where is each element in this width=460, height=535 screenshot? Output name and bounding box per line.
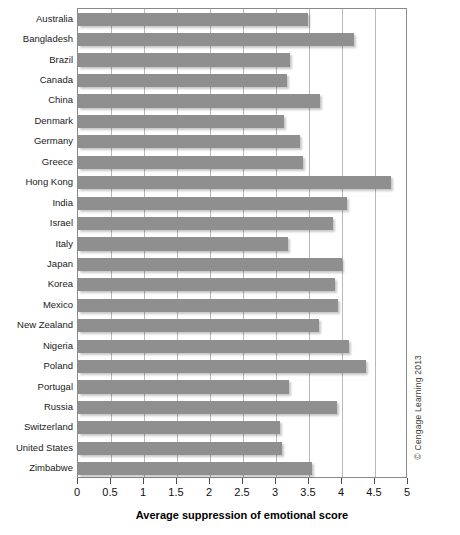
bar-row [78,377,406,397]
bar-row [78,50,406,70]
x-tick-label: 4.5 [366,486,381,498]
bar-row [78,213,406,233]
bar [78,278,335,291]
y-axis-label-mexico: Mexico [0,299,73,310]
x-tick-label: 4 [338,486,344,498]
x-axis-tick-marks [77,478,407,484]
y-axis-label-switzerland: Switzerland [0,421,73,432]
y-axis-category-labels: AustraliaBangladeshBrazilCanadaChinaDenm… [0,8,73,478]
bar [78,115,284,128]
bar-chart-figure: AustraliaBangladeshBrazilCanadaChinaDenm… [0,0,460,535]
y-axis-label-nigeria: Nigeria [0,340,73,351]
y-axis-label-new-zealand: New Zealand [0,319,73,330]
bar-row [78,9,406,29]
y-axis-label-bangladesh: Bangladesh [0,33,73,44]
x-tick [407,478,408,484]
bar [78,176,391,189]
bar [78,442,282,455]
bar-row [78,132,406,152]
y-axis-label-russia: Russia [0,401,73,412]
x-tick [143,478,144,484]
bar-row [78,438,406,458]
x-tick-label: 0.5 [102,486,117,498]
y-axis-label-poland: Poland [0,360,73,371]
bar [78,135,300,148]
x-axis-tick-labels: 00.511.522.533.544.55 [77,486,407,502]
bar-row [78,275,406,295]
bar [78,156,303,169]
bar [78,33,354,46]
x-tick-label: 1.5 [168,486,183,498]
bar-row [78,418,406,438]
bar-row [78,254,406,274]
x-tick [341,478,342,484]
y-axis-label-india: India [0,197,73,208]
bar-series [78,9,406,477]
x-tick [308,478,309,484]
bar [78,237,288,250]
bar [78,462,312,475]
bar-row [78,336,406,356]
x-tick-label: 2.5 [234,486,249,498]
x-tick [77,478,78,484]
bar-row [78,152,406,172]
bar-row [78,193,406,213]
y-axis-label-zimbabwe: Zimbabwe [0,462,73,473]
x-tick-label: 5 [404,486,410,498]
bar [78,319,319,332]
bar-row [78,111,406,131]
bar [78,74,287,87]
x-tick-label: 0 [74,486,80,498]
bar-row [78,459,406,479]
x-tick-label: 3.5 [300,486,315,498]
bar [78,94,320,107]
bar [78,217,333,230]
bar [78,421,280,434]
bar-row [78,316,406,336]
bar-row [78,172,406,192]
y-axis-label-brazil: Brazil [0,54,73,65]
bar [78,401,337,414]
y-axis-label-china: China [0,94,73,105]
bar [78,258,342,271]
y-axis-label-greece: Greece [0,156,73,167]
bar [78,53,290,66]
bar [78,360,366,373]
x-tick [209,478,210,484]
x-axis-title: Average suppression of emotional score [77,509,407,521]
x-tick-label: 1 [140,486,146,498]
bar [78,340,349,353]
bar-row [78,70,406,90]
y-axis-label-canada: Canada [0,74,73,85]
y-axis-label-denmark: Denmark [0,115,73,126]
x-tick [110,478,111,484]
x-tick [242,478,243,484]
bar [78,380,289,393]
copyright-credit: © Cengage Learning 2013 [413,355,423,459]
y-axis-label-israel: Israel [0,217,73,228]
bar-row [78,91,406,111]
bar [78,13,308,26]
x-tick [374,478,375,484]
bar-row [78,356,406,376]
y-axis-label-portugal: Portugal [0,381,73,392]
x-tick [176,478,177,484]
bar-row [78,397,406,417]
x-tick-label: 2 [206,486,212,498]
bar-row [78,295,406,315]
x-tick [275,478,276,484]
y-axis-label-italy: Italy [0,238,73,249]
bar [78,299,338,312]
y-axis-label-japan: Japan [0,258,73,269]
y-axis-label-germany: Germany [0,135,73,146]
plot-area [77,8,407,478]
bar-row [78,234,406,254]
y-axis-label-korea: Korea [0,278,73,289]
bar-row [78,29,406,49]
x-tick-label: 3 [272,486,278,498]
y-axis-label-hong-kong: Hong Kong [0,176,73,187]
bar [78,197,347,210]
y-axis-label-united-states: United States [0,442,73,453]
y-axis-label-australia: Australia [0,13,73,24]
